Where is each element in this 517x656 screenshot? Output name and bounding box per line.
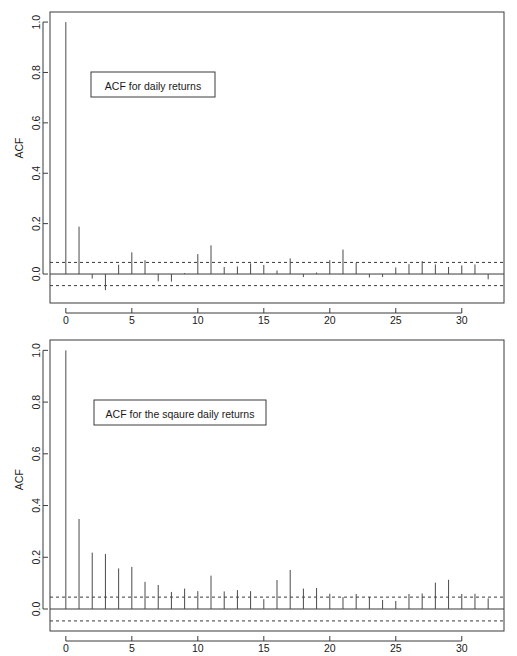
- acf-stems: [66, 22, 488, 290]
- y-axis-title: ACF: [13, 469, 25, 490]
- x-tick-label-2: 10: [192, 642, 204, 654]
- x-tick-label-6: 30: [456, 642, 468, 654]
- x-tick-label-2: 10: [192, 314, 204, 326]
- x-tick-label-0: 0: [63, 642, 69, 654]
- acf-panel-daily-returns: 0.00.20.40.60.81.0ACF051015202530ACF for…: [0, 0, 517, 328]
- acf-chart-square-daily-returns: 0.00.20.40.60.81.0ACF051015202530ACF for…: [0, 328, 517, 656]
- y-tick-label-1: 0.2: [30, 216, 42, 231]
- y-tick-label-2: 0.4: [30, 498, 42, 513]
- y-tick-label-5: 1.0: [30, 15, 42, 30]
- annotation-label: ACF for daily returns: [105, 80, 201, 92]
- x-tick-label-0: 0: [63, 314, 69, 326]
- acf-chart-daily-returns: 0.00.20.40.60.81.0ACF051015202530ACF for…: [0, 0, 517, 328]
- y-tick-label-1: 0.2: [30, 550, 42, 565]
- x-tick-label-3: 15: [258, 642, 270, 654]
- x-tick-label-5: 25: [390, 314, 402, 326]
- x-tick-label-1: 5: [129, 642, 135, 654]
- x-tick-label-4: 20: [324, 314, 336, 326]
- acf-plot-page: 0.00.20.40.60.81.0ACF051015202530ACF for…: [0, 0, 517, 656]
- y-tick-label-0: 0.0: [30, 267, 42, 282]
- x-tick-label-1: 5: [129, 314, 135, 326]
- y-tick-label-4: 0.8: [30, 395, 42, 410]
- y-tick-label-5: 1.0: [30, 343, 42, 358]
- x-tick-label-6: 30: [456, 314, 468, 326]
- y-tick-label-0: 0.0: [30, 602, 42, 617]
- annotation-label: ACF for the sqaure daily returns: [106, 408, 255, 420]
- y-tick-label-4: 0.8: [30, 65, 42, 80]
- y-tick-label-3: 0.6: [30, 446, 42, 461]
- x-tick-label-3: 15: [258, 314, 270, 326]
- acf-panel-square-daily-returns: 0.00.20.40.60.81.0ACF051015202530ACF for…: [0, 328, 517, 656]
- y-tick-label-3: 0.6: [30, 115, 42, 130]
- plot-frame: [50, 12, 504, 303]
- x-tick-label-4: 20: [324, 642, 336, 654]
- y-axis-title: ACF: [13, 138, 25, 159]
- y-tick-label-2: 0.4: [30, 166, 42, 181]
- x-tick-label-5: 25: [390, 642, 402, 654]
- acf-stems: [66, 350, 488, 609]
